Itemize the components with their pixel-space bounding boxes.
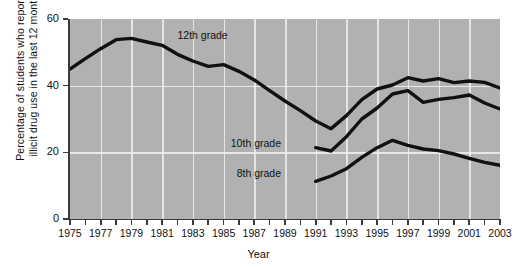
x-axis-tick-label: 2003 [480, 227, 517, 239]
x-axis-tick [484, 220, 486, 225]
x-axis-tick [146, 220, 148, 225]
x-axis-tick [100, 220, 102, 225]
x-axis-tick [69, 220, 71, 225]
x-axis-tick [253, 220, 255, 225]
y-axis-tick-label: 40 [33, 79, 59, 91]
x-axis-tick [499, 220, 501, 225]
y-axis-tick [63, 18, 68, 20]
x-axis-tick [407, 220, 409, 225]
x-axis-tick [115, 220, 117, 225]
x-axis-tick [438, 220, 440, 225]
plot-area [70, 19, 500, 219]
x-axis-title: Year [0, 248, 517, 260]
x-axis-tick [453, 220, 455, 225]
series-canvas [70, 19, 500, 219]
x-axis-tick [330, 220, 332, 225]
x-axis-tick [223, 220, 225, 225]
series-line-8th-grade [316, 140, 500, 181]
series-label-8th-grade: 8th grade [237, 167, 281, 179]
x-axis-tick [376, 220, 378, 225]
chart-figure: Percentage of students who reported illi… [0, 0, 517, 267]
x-axis-tick [315, 220, 317, 225]
x-axis-tick [284, 220, 286, 225]
x-axis-tick [361, 220, 363, 225]
x-axis-tick [131, 220, 133, 225]
y-axis-title: Percentage of students who reported illi… [10, 0, 44, 186]
x-axis-tick [161, 220, 163, 225]
series-label-12th-grade: 12th grade [178, 29, 228, 41]
y-axis-tick [63, 218, 68, 220]
x-axis-tick [300, 220, 302, 225]
x-axis-tick [238, 220, 240, 225]
y-axis-tick [63, 152, 68, 154]
y-axis-tick-label: 0 [33, 212, 59, 224]
y-axis-line [68, 19, 70, 220]
x-axis-tick [269, 220, 271, 225]
x-axis-tick [85, 220, 87, 225]
x-axis-tick [177, 220, 179, 225]
y-axis-title-line-1: Percentage of students who reported [14, 0, 27, 161]
x-axis-tick [192, 220, 194, 225]
x-axis-tick [422, 220, 424, 225]
y-axis-tick-label: 20 [33, 145, 59, 157]
series-line-10th-grade [316, 91, 500, 151]
y-axis-tick [63, 85, 68, 87]
x-axis-tick [346, 220, 348, 225]
x-axis-tick [207, 220, 209, 225]
x-axis-tick [468, 220, 470, 225]
x-axis-tick [392, 220, 394, 225]
series-label-10th-grade: 10th grade [231, 137, 281, 149]
y-axis-tick-label: 60 [33, 12, 59, 24]
series-line-12th-grade [70, 38, 500, 128]
